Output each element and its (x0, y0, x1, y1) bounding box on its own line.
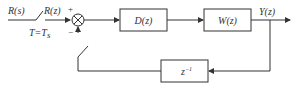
minus-sign: − (68, 27, 73, 37)
plant-label: W(z) (218, 15, 238, 27)
controller-label: D(z) (134, 15, 153, 27)
output-label: Y(z) (259, 6, 276, 18)
sampler-period-label: T=Ts (29, 27, 51, 40)
block-diagram: R(s) R(z) T=Ts + − D(z) W(z) Y(z) z−1 (0, 0, 298, 89)
feedback-sampler-icon (78, 46, 88, 57)
plus-sign: + (68, 4, 73, 14)
sampler-switch-icon (36, 11, 43, 20)
sampled-label: R(z) (43, 5, 61, 17)
input-label: R(s) (7, 5, 25, 17)
summing-junction (72, 14, 84, 26)
